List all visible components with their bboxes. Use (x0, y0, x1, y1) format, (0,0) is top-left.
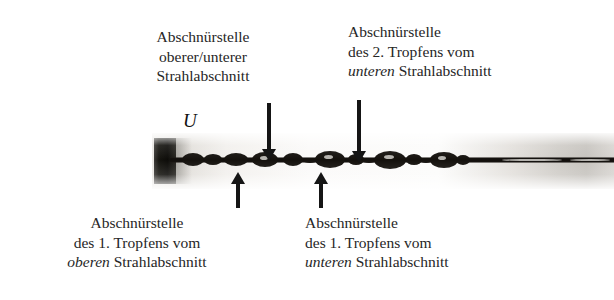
annotation-bottom-left-line1: Abschnürstelle (8, 213, 266, 233)
annotation-bottom-right-emphasis: unteren (305, 253, 352, 270)
annotation-bottom-left-line3-rest: Strahlabschnitt (110, 253, 207, 270)
annotation-top-right-emphasis: unteren (348, 62, 395, 79)
annotation-top-left-line3: Strahlabschnitt (108, 66, 298, 86)
annotation-bottom-left-line3: oberen Strahlabschnitt (8, 252, 266, 272)
arrow-shaft (267, 103, 271, 149)
annotation-top-right-line1: Abschnürstelle (348, 22, 602, 42)
figure-container: Abschnürstelle oberer/unterer Strahlabsc… (0, 0, 614, 300)
velocity-symbol-label: U (183, 110, 197, 132)
annotation-bottom-right: Abschnürstelle des 1. Tropfens vom unter… (305, 213, 567, 272)
annotation-bottom-right-line3: unteren Strahlabschnitt (305, 252, 567, 272)
arrow-shaft (319, 183, 323, 208)
arrow-shaft (357, 100, 361, 151)
arrow-up-left-icon (231, 172, 245, 208)
annotation-top-right-line3: unteren Strahlabschnitt (348, 61, 602, 81)
annotation-bottom-left: Abschnürstelle des 1. Tropfens vom obere… (8, 213, 266, 272)
annotation-top-right-line3-rest: Strahlabschnitt (395, 62, 492, 79)
arrow-up-right-icon (314, 172, 328, 208)
photo-vignette (152, 133, 614, 189)
annotation-bottom-left-emphasis: oberen (67, 253, 109, 270)
annotation-bottom-right-line1: Abschnürstelle (305, 213, 567, 233)
jet-photograph (152, 133, 614, 189)
annotation-top-right: Abschnürstelle des 2. Tropfens vom unter… (348, 22, 602, 81)
arrow-down-right-icon (352, 100, 366, 163)
annotation-top-left-line1: Abschnürstelle (108, 27, 298, 47)
annotation-top-right-line2: des 2. Tropfens vom (348, 42, 602, 62)
annotation-bottom-right-line3-rest: Strahlabschnitt (352, 253, 449, 270)
annotation-top-left-line2: oberer/unterer (108, 47, 298, 67)
arrow-shaft (236, 183, 240, 208)
arrow-head (262, 149, 276, 161)
arrow-down-left-icon (262, 103, 276, 161)
annotation-bottom-right-line2: des 1. Tropfens vom (305, 233, 567, 253)
arrow-head (352, 151, 366, 163)
annotation-top-left: Abschnürstelle oberer/unterer Strahlabsc… (108, 27, 298, 86)
annotation-bottom-left-line2: des 1. Tropfens vom (8, 233, 266, 253)
